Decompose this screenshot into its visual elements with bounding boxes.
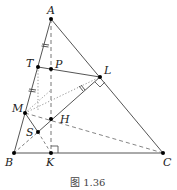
tick-marks-at xyxy=(42,44,50,47)
point-k xyxy=(49,151,53,155)
label-t: T xyxy=(26,57,35,70)
side-ac xyxy=(51,19,163,153)
right-angle-l xyxy=(95,82,105,87)
segment-mc xyxy=(25,113,163,153)
point-b xyxy=(12,151,16,155)
label-h: H xyxy=(59,113,70,126)
point-t xyxy=(36,65,40,69)
label-m: M xyxy=(11,102,24,115)
figure-caption: 图 1.36 xyxy=(70,177,105,188)
label-a: A xyxy=(46,4,55,17)
geometry-figure: A T P L M H S B K C 图 1.36 xyxy=(0,0,177,190)
point-h xyxy=(49,117,53,121)
label-c: C xyxy=(163,156,172,169)
point-p xyxy=(49,67,53,71)
point-l xyxy=(98,75,102,79)
segment-sk xyxy=(38,132,51,153)
label-p: P xyxy=(54,58,63,71)
tick-marks-hl xyxy=(79,85,85,91)
point-m xyxy=(23,111,27,115)
label-l: L xyxy=(103,64,111,77)
point-s xyxy=(36,130,40,134)
label-b: B xyxy=(4,156,13,169)
tick-marks-tm xyxy=(29,89,37,92)
label-k: K xyxy=(45,156,55,169)
segment-tl xyxy=(38,67,100,77)
point-a xyxy=(49,17,53,21)
segment-ml xyxy=(25,77,100,113)
point-c xyxy=(161,151,165,155)
label-s: S xyxy=(26,126,34,139)
